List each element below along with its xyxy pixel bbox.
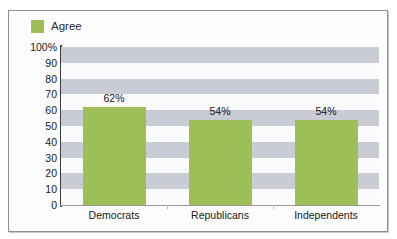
bar-value-label-independents: 54% <box>315 105 336 117</box>
x-axis-label-republicans: Republicans <box>191 209 249 221</box>
y-axis-tick-label: 60 <box>11 104 57 116</box>
x-axis-category-labels: DemocratsRepublicansIndependents <box>61 209 379 227</box>
x-axis-label-democrats: Democrats <box>89 209 140 221</box>
chart-legend: Agree <box>31 18 82 34</box>
y-axis-tick-label: 10 <box>11 183 57 195</box>
chart-figure: Agree 100%9080706050403020100 62%54%54% … <box>8 10 388 232</box>
y-axis-tick-label: 70 <box>11 88 57 100</box>
x-axis-separator <box>167 205 168 209</box>
y-axis-tick-label: 20 <box>11 167 57 179</box>
bar-democrats <box>83 107 146 205</box>
y-axis-tick-label: 100% <box>11 41 57 53</box>
x-axis-separator <box>273 205 274 209</box>
y-axis-tick-label: 90 <box>11 57 57 69</box>
bar-independents <box>295 120 358 205</box>
bar-value-label-democrats: 62% <box>103 92 124 104</box>
x-axis-label-independents: Independents <box>294 209 358 221</box>
bar-value-label-republicans: 54% <box>209 105 230 117</box>
x-axis-line <box>60 205 380 206</box>
y-axis-tick-label: 50 <box>11 120 57 132</box>
y-axis-tick-labels: 100%9080706050403020100 <box>9 47 57 205</box>
bar-republicans <box>189 120 252 205</box>
y-axis-tick-label: 0 <box>11 199 57 211</box>
y-axis-tick-label: 80 <box>11 73 57 85</box>
legend-swatch-agree-icon <box>31 20 44 33</box>
plot-band <box>61 47 379 63</box>
y-axis-tick-label: 30 <box>11 152 57 164</box>
legend-label-agree: Agree <box>51 20 82 33</box>
y-axis-tick-label: 40 <box>11 136 57 148</box>
plot-area: 62%54%54% <box>61 47 379 205</box>
